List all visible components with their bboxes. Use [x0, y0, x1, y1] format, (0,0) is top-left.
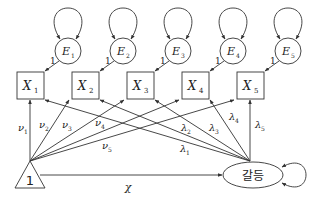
- e1-variance-loop: [54, 8, 82, 39]
- e1-loading-label: 1: [50, 56, 56, 66]
- x4-sub: 4: [199, 87, 204, 95]
- e3-sub: 3: [181, 52, 185, 59]
- error-variance-loops: [54, 8, 302, 39]
- nu2-sub: 2: [45, 125, 49, 132]
- e3-loading-label: 1: [160, 56, 166, 66]
- x2-sub: 2: [89, 87, 93, 95]
- intercept-labels: ν 1 ν 2 ν 3 ν 4 ν 5: [18, 117, 112, 153]
- e2-sub: 2: [126, 52, 130, 59]
- e2-loading-label: 1: [105, 56, 111, 66]
- nu5-sub: 5: [108, 146, 112, 153]
- e2-label: E: [116, 45, 125, 58]
- x4-label: X: [187, 79, 197, 93]
- lambda2-path: [100, 100, 250, 161]
- e5-loading-label: 1: [270, 56, 276, 66]
- nu2-path: [30, 100, 69, 161]
- x5-label: X: [242, 79, 252, 93]
- e4-loading-label: 1: [215, 56, 221, 66]
- path-diagram: 1 갈등 X 1 X 2 X 3 X 4 X 5 E 1 E 2 E 3 E 4…: [0, 0, 315, 199]
- lambda4-sub: 4: [235, 117, 239, 124]
- chi-label: χ: [124, 181, 133, 194]
- x5-sub: 5: [254, 87, 258, 95]
- x3-label: X: [132, 79, 142, 93]
- e5-sub: 5: [291, 52, 295, 59]
- x2-label: X: [77, 79, 87, 93]
- e4-sub: 4: [236, 52, 240, 59]
- error-labels: E 1 E 2 E 3 E 4 E 5: [61, 45, 295, 59]
- e3-label: E: [171, 45, 180, 58]
- constant-label: 1: [26, 173, 34, 188]
- lambda5-sub: 5: [261, 125, 265, 132]
- lambda1-sub: 1: [186, 149, 190, 156]
- lambda2-sub: 2: [187, 128, 191, 135]
- e3-variance-loop: [164, 8, 192, 39]
- nu3-sub: 3: [68, 125, 72, 132]
- x3-sub: 3: [144, 87, 148, 95]
- nu1-sub: 1: [24, 128, 28, 135]
- e2-variance-loop: [109, 8, 137, 39]
- lambda3-sub: 3: [215, 128, 219, 135]
- x1-label: X: [22, 79, 32, 93]
- x1-sub: 1: [34, 87, 38, 95]
- latent-variance-loop: [282, 163, 306, 187]
- e4-variance-loop: [219, 8, 247, 39]
- lambda1-path: [45, 100, 250, 161]
- nu5-path: [30, 100, 234, 161]
- e1-label: E: [61, 45, 70, 58]
- e5-label: E: [281, 45, 290, 58]
- nu4-path: [30, 100, 179, 161]
- observed-labels: X 1 X 2 X 3 X 4 X 5: [22, 79, 259, 95]
- nu4-sub: 4: [101, 123, 105, 130]
- e4-label: E: [226, 45, 235, 58]
- intercept-paths: [30, 100, 234, 161]
- e1-sub: 1: [71, 52, 75, 59]
- loading-paths: [45, 100, 250, 161]
- e5-variance-loop: [274, 8, 302, 39]
- latent-label: 갈등: [242, 169, 264, 183]
